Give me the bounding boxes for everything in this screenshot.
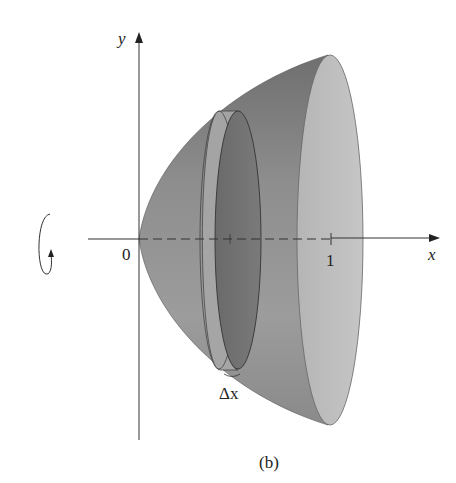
disk-slice-face [215,111,261,369]
x-axis-arrowhead-icon [429,234,440,242]
delta-x-label: Δx [219,384,239,403]
solid-of-revolution-diagram: y 0 1 x Δx (b) [0,0,456,483]
end-cap-disk [297,55,363,425]
x-tick-label-1: 1 [326,251,335,270]
y-axis-label: y [116,29,126,48]
origin-label: 0 [122,245,131,264]
figure-caption: (b) [259,453,279,472]
x-axis-label: x [427,245,436,264]
rotation-arrow-icon [39,214,54,274]
y-axis-arrowhead-icon [135,32,143,43]
